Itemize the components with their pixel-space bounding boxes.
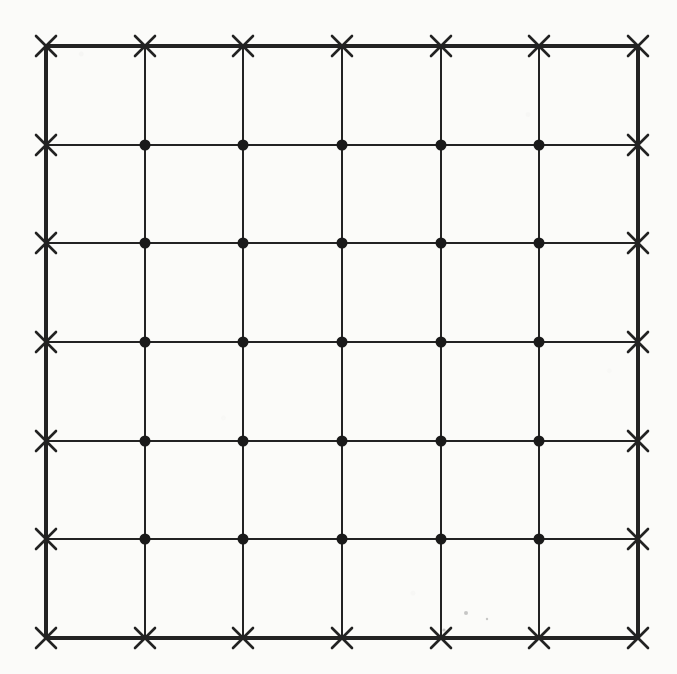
interior-node-dot [534, 140, 545, 151]
figure-canvas [0, 0, 677, 674]
interior-node-dot [436, 436, 447, 447]
figure-background [0, 0, 677, 674]
interior-node-dot [436, 238, 447, 249]
interior-node-dot [238, 337, 249, 348]
interior-node-dot [436, 140, 447, 151]
interior-node-dot [140, 140, 151, 151]
interior-node-dot [140, 337, 151, 348]
interior-node-dot [140, 238, 151, 249]
interior-node-dot [238, 238, 249, 249]
interior-node-dot [140, 436, 151, 447]
interior-node-dot [436, 337, 447, 348]
interior-node-dot [238, 140, 249, 151]
interior-node-dot [337, 337, 348, 348]
interior-node-dot [436, 534, 447, 545]
interior-node-dot [534, 436, 545, 447]
lattice-grid-figure [0, 0, 677, 674]
interior-node-dot [534, 337, 545, 348]
scan-speck [464, 611, 468, 615]
scan-speck [486, 618, 488, 620]
interior-node-dot [140, 534, 151, 545]
interior-node-dot [534, 238, 545, 249]
interior-node-dot [534, 534, 545, 545]
interior-node-dot [238, 534, 249, 545]
interior-node-dot [337, 238, 348, 249]
interior-node-dot [337, 436, 348, 447]
interior-node-dot [238, 436, 249, 447]
scan-speck [442, 628, 445, 631]
interior-node-dot [337, 534, 348, 545]
interior-node-dot [337, 140, 348, 151]
